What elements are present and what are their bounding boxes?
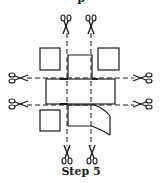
scissors-icon-right-top	[133, 73, 152, 83]
cross-net	[46, 55, 115, 126]
peeled-flap	[92, 104, 110, 135]
scissors-icon-top-right	[86, 15, 96, 34]
step-caption: Step 5	[0, 165, 162, 178]
scissors-icon-bottom-left	[62, 145, 72, 164]
square-top-right	[98, 48, 119, 70]
scissors-icon-right-bottom	[133, 99, 152, 109]
scissors-icon-top-left	[61, 15, 71, 34]
scissors-icon-left-bottom	[9, 99, 28, 109]
cut-lines	[27, 33, 134, 146]
scissors-icon-bottom-right	[87, 145, 97, 164]
square-top-left	[40, 48, 60, 70]
scissors-icon-left-top	[9, 73, 28, 83]
cutting-diagram	[0, 0, 162, 183]
square-bottom-left	[40, 110, 60, 131]
